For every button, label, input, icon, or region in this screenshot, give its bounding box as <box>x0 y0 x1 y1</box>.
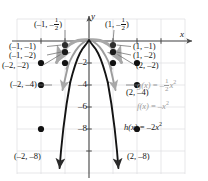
function-label-f: f(x) = –x2 <box>137 101 169 110</box>
function-label-g: g(x) = –12x2 <box>137 78 176 94</box>
point-label-g-left-2: (–2, –2) <box>2 61 29 70</box>
y-axis-label: y <box>91 12 95 21</box>
point-label-h-right-2: (1, –2) <box>133 51 156 60</box>
point-label-h-right-8: (2, –8) <box>127 152 150 161</box>
point-label-f-left-4: (–2, –4) <box>10 80 37 89</box>
point-label-g-left-half: (–1, –12) <box>34 17 62 33</box>
point-label-g-right-2: (2, –2) <box>136 61 159 70</box>
parabola-comparison-figure: (–1, –12) (1, –12) (–1, –1) (–1, –2) (–2… <box>0 0 208 181</box>
point-label-g-right-half: (1, –12) <box>105 17 129 33</box>
point-label-h-left-8: (–2, –8) <box>14 152 41 161</box>
point-label-h-left-2: (–1, –2) <box>9 51 36 60</box>
x-axis-label: x <box>180 30 184 39</box>
y-tick-label-minus8: –8 <box>78 124 87 133</box>
y-tick-label-minus6: –6 <box>78 102 87 111</box>
y-tick-label-minus2: –2 <box>78 58 87 67</box>
function-label-h: h(x) = –2x2 <box>124 122 162 131</box>
y-tick-label-minus4: –4 <box>78 80 87 89</box>
